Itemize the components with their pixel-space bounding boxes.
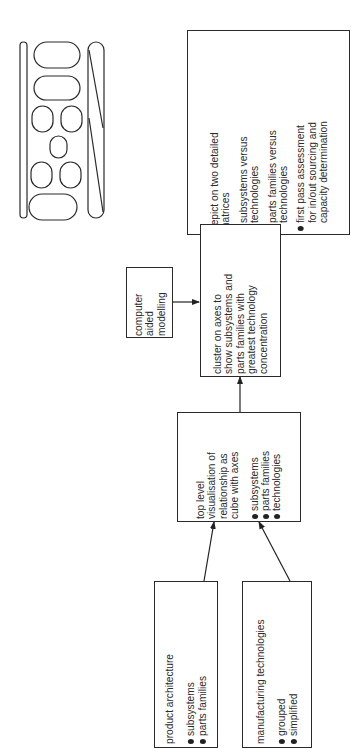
node-product-architecture: product architecture subsystems parts fa…	[154, 581, 218, 748]
node-manufacturing-technologies: manufacturing technologies grouped simpl…	[242, 581, 312, 748]
node-top-level: top level visualisation of relationship …	[177, 412, 301, 522]
sketch-left-strip	[20, 42, 27, 218]
matrices-title-line: matrices	[220, 35, 231, 231]
manufacturing-title: manufacturing technologies	[255, 586, 266, 744]
toplevel-line: relationship as	[218, 415, 229, 519]
toplevel-bullet: subsystems	[249, 415, 260, 519]
sketch-oval-top	[34, 42, 80, 68]
cam-line: modelling	[155, 270, 166, 336]
cluster-line: concentration	[258, 228, 269, 374]
cluster-line: cluster on axes to	[212, 228, 223, 374]
matrices-text: depict on two detailed matrices subsyste…	[208, 35, 329, 231]
toplevel-line: cube with axes	[229, 415, 240, 519]
manufacturing-text: manufacturing technologies grouped simpl…	[255, 586, 299, 744]
sketch-diagonal-2	[89, 118, 103, 212]
sketch-oval-low-right	[60, 162, 81, 188]
cluster-line: greatest technology	[246, 228, 257, 374]
sketch-oval-second	[34, 76, 80, 100]
sketch-oval-center	[50, 136, 67, 158]
sketch-oval-bottom	[29, 194, 77, 220]
cluster-line: show subsystems and	[223, 228, 234, 374]
sketch-diagonal-1	[89, 50, 103, 128]
cam-line: computer	[132, 270, 143, 336]
matrices-bullet: first pass assessment for in/out sourcin…	[295, 35, 329, 231]
cam-line: aided	[144, 270, 155, 336]
sketch-oval-mid-right	[61, 106, 82, 132]
manufacturing-bullet: grouped	[276, 586, 287, 744]
sketch-oval-low-left	[31, 162, 52, 188]
toplevel-bullet: technologies	[272, 415, 283, 519]
product-bullet: subsystems	[185, 586, 196, 744]
matrices-bullet: parts families versus technologies	[266, 35, 289, 231]
node-matrices: depict on two detailed matrices subsyste…	[187, 30, 350, 235]
product-title: product architecture	[164, 586, 175, 744]
node-cluster: cluster on axes to show subsystems and p…	[200, 224, 281, 377]
matrices-title-line: depict on two detailed	[208, 35, 219, 231]
cluster-text: cluster on axes to show subsystems and p…	[212, 228, 269, 374]
cam-text: computer aided modelling	[132, 270, 166, 336]
edge-product-to-toplevel	[204, 522, 214, 581]
toplevel-text: top level visualisation of relationship …	[195, 415, 283, 519]
toplevel-line: top level	[195, 415, 206, 519]
matrices-bullet: subsystems versus technologies	[237, 35, 260, 231]
edge-manufacturing-to-toplevel	[259, 522, 290, 581]
cluster-line: parts families with	[235, 228, 246, 374]
part-layout-sketch	[20, 42, 104, 220]
manufacturing-bullet: simplified	[288, 586, 299, 744]
product-bullet: parts families	[197, 586, 208, 744]
product-text: product architecture subsystems parts fa…	[164, 586, 208, 744]
toplevel-line: visualisation of	[206, 415, 217, 519]
node-computer-aided-modelling: computer aided modelling	[126, 267, 173, 338]
toplevel-bullet: parts families	[260, 415, 271, 519]
sketch-oval-mid-left	[32, 106, 53, 132]
